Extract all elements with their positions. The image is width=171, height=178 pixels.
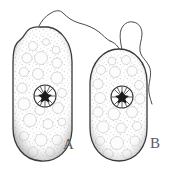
cell-a-nucleus xyxy=(34,85,56,107)
figure-illustration: A B xyxy=(0,0,171,178)
cell-b xyxy=(87,46,151,166)
cell-diagram-canvas xyxy=(0,0,171,178)
cell-b-nucleus xyxy=(111,86,133,108)
cell-label-b: B xyxy=(150,136,161,151)
cell-label-a: A xyxy=(63,137,74,152)
